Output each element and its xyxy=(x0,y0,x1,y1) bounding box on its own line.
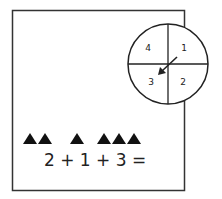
triangle-icon xyxy=(127,133,141,144)
triangle-icon xyxy=(23,133,37,144)
spinner-label-bottom-right: 2 xyxy=(180,77,186,87)
spinner-label-top-right: 1 xyxy=(181,43,187,53)
spinner-label-top-left: 4 xyxy=(145,43,151,53)
triangle-icon xyxy=(112,133,126,144)
triangle-icon xyxy=(38,133,52,144)
triangle-icon xyxy=(70,133,84,144)
spinner-label-bottom-left: 3 xyxy=(148,77,154,87)
triangle-group-3 xyxy=(97,133,141,144)
triangle-groups xyxy=(23,133,141,144)
triangle-icon xyxy=(97,133,111,144)
triangle-group-2 xyxy=(70,133,84,144)
equation-text: 2 + 1 + 3 = xyxy=(44,150,146,170)
spinner: 4 1 3 2 xyxy=(128,24,208,104)
math-worksheet-diagram: 4 1 3 2 2 + 1 + 3 = xyxy=(0,0,222,199)
triangle-group-1 xyxy=(23,133,52,144)
